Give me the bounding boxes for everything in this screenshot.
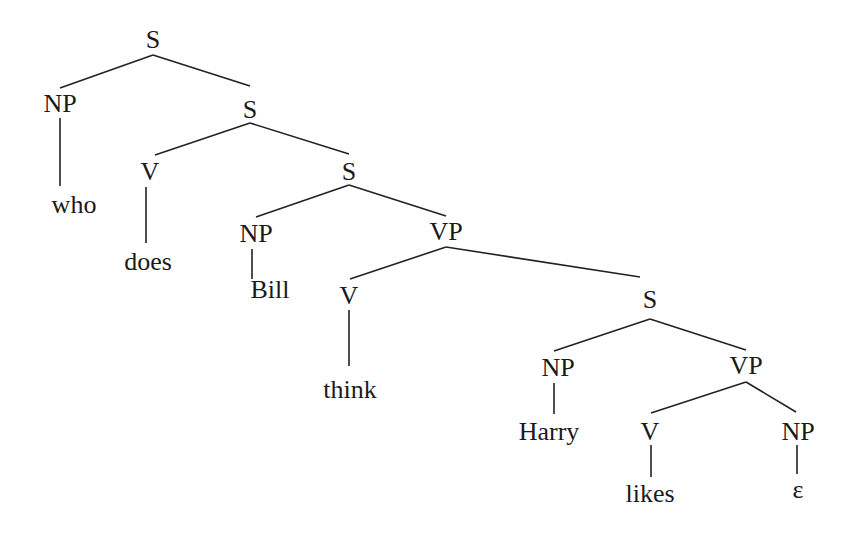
tree-node-np3: NP	[541, 355, 574, 381]
tree-node-eps: ε	[793, 477, 804, 503]
tree-edge	[153, 55, 250, 86]
tree-edge	[650, 319, 746, 350]
tree-edge	[651, 382, 746, 413]
tree-node-s4: S	[643, 287, 657, 313]
tree-node-np2: NP	[239, 221, 272, 247]
tree-node-does: does	[124, 249, 172, 275]
tree-edge	[746, 382, 796, 412]
tree-node-likes: likes	[625, 481, 674, 507]
tree-node-vp1: VP	[429, 219, 462, 245]
tree-edge	[350, 247, 446, 279]
tree-node-v1: V	[141, 159, 160, 185]
tree-edge	[554, 319, 650, 351]
tree-edge	[446, 247, 640, 277]
tree-node-s2: S	[243, 97, 257, 123]
tree-edge	[60, 55, 153, 88]
tree-node-vp2: VP	[729, 353, 762, 379]
tree-node-bill: Bill	[250, 277, 289, 303]
tree-node-s3: S	[342, 159, 356, 185]
syntax-tree: SNPwhoSVdoesSNPBillVPVthinkSNPHarryVPVli…	[0, 0, 856, 537]
tree-edge	[349, 185, 446, 216]
tree-edge	[250, 123, 349, 154]
tree-node-np4: NP	[781, 419, 814, 445]
tree-node-who: who	[52, 192, 97, 218]
tree-node-v2: V	[340, 283, 359, 309]
tree-node-np1: NP	[43, 91, 76, 117]
tree-edge	[155, 123, 250, 155]
tree-edge	[256, 185, 349, 217]
tree-node-harry: Harry	[519, 419, 580, 445]
tree-node-s1: S	[146, 27, 160, 53]
tree-node-think: think	[323, 377, 376, 403]
tree-node-v3: V	[641, 419, 660, 445]
